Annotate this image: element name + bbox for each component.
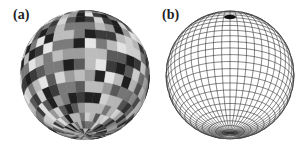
panel-a-random-sphere: (a) bbox=[0, 0, 152, 147]
panel-label-a: (a) bbox=[13, 7, 29, 23]
panel-label-b: (b) bbox=[162, 7, 179, 23]
panel-b-grid-sphere: (b) bbox=[152, 0, 305, 147]
